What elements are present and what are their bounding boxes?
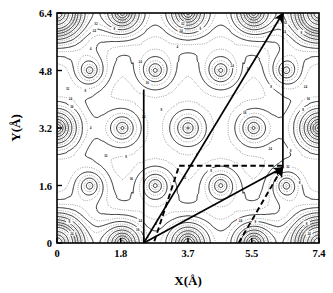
contour-value-label: 24	[70, 232, 74, 236]
contour-value-label: 32	[286, 165, 290, 169]
x-tick-label: 0	[54, 248, 59, 259]
contour-value-label: 16	[146, 81, 150, 85]
contour-value-label: 8	[84, 89, 86, 93]
contour-value-label: 32	[94, 22, 98, 26]
contour-value-label: 4	[177, 45, 179, 49]
contour-value-label: 8	[210, 169, 212, 173]
contour-value-label: 24	[69, 97, 73, 101]
x-tick-label: 7.4	[312, 248, 326, 259]
contour-value-label: 32	[66, 87, 70, 91]
y-axis-label: Y(Å)	[8, 114, 23, 141]
contour-value-label: 8	[200, 27, 202, 31]
y-tick-label: 3.2	[39, 123, 52, 134]
contour-value-label: 8	[300, 31, 302, 35]
contour-value-label: 24	[179, 29, 183, 33]
contour-value-label: 24	[231, 64, 235, 68]
contour-value-label: 16	[136, 228, 140, 232]
y-tick-label: 1.6	[39, 181, 52, 192]
contour-value-label: 32	[181, 22, 185, 26]
contour-value-label: 16	[130, 177, 134, 181]
contour-value-label: 8	[290, 149, 292, 153]
y-tick-label: 6.4	[39, 8, 53, 19]
contour-figure: 3224843224843224824162482432816322481624…	[0, 0, 333, 293]
contour-value-label: 8	[161, 108, 163, 112]
contour-value-label: 8	[69, 220, 71, 224]
contour-value-label: 24	[139, 60, 143, 64]
contour-value-label: 24	[139, 219, 143, 223]
contour-value-label: 24	[307, 232, 311, 236]
x-axis-label: X(Å)	[174, 273, 201, 288]
contour-value-label: 8	[125, 155, 127, 159]
contour-value-label: 16	[307, 97, 311, 101]
contour-value-label: 24	[239, 219, 243, 223]
x-tick-label: 5.5	[245, 248, 258, 259]
contour-value-label: 16	[70, 105, 74, 109]
contour-value-label: 32	[284, 21, 288, 25]
contour-value-label: 8	[270, 85, 272, 89]
contour-value-label: 8	[114, 27, 116, 31]
contour-value-label: 24	[268, 147, 272, 151]
contour-value-label: 16	[243, 111, 247, 115]
x-tick-label: 3.7	[181, 248, 194, 259]
contour-value-label: 4	[90, 47, 92, 51]
y-tick-label: 4.8	[39, 66, 52, 77]
contour-value-label: 4	[90, 126, 92, 130]
contour-value-label: 24	[92, 29, 96, 33]
contour-value-label: 32	[104, 154, 108, 158]
contour-value-label: 8	[254, 220, 256, 224]
contour-value-label: 24	[304, 85, 308, 89]
x-tick-label: 1.8	[114, 248, 127, 259]
contour-value-label: 8	[306, 222, 308, 226]
contour-value-label: 8	[302, 108, 304, 112]
contour-value-label: 8	[299, 181, 301, 185]
y-tick-label: 0	[47, 238, 52, 249]
